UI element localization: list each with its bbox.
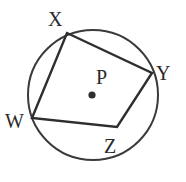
label-z: Z <box>104 135 116 157</box>
circle-quadrilateral-figure: P X Y Z W <box>0 0 186 182</box>
label-x: X <box>48 8 63 30</box>
center-point-p <box>88 91 95 98</box>
label-y: Y <box>156 62 170 84</box>
diagram-canvas: P X Y Z W <box>0 0 186 182</box>
label-w: W <box>5 110 24 132</box>
label-p: P <box>96 66 107 88</box>
